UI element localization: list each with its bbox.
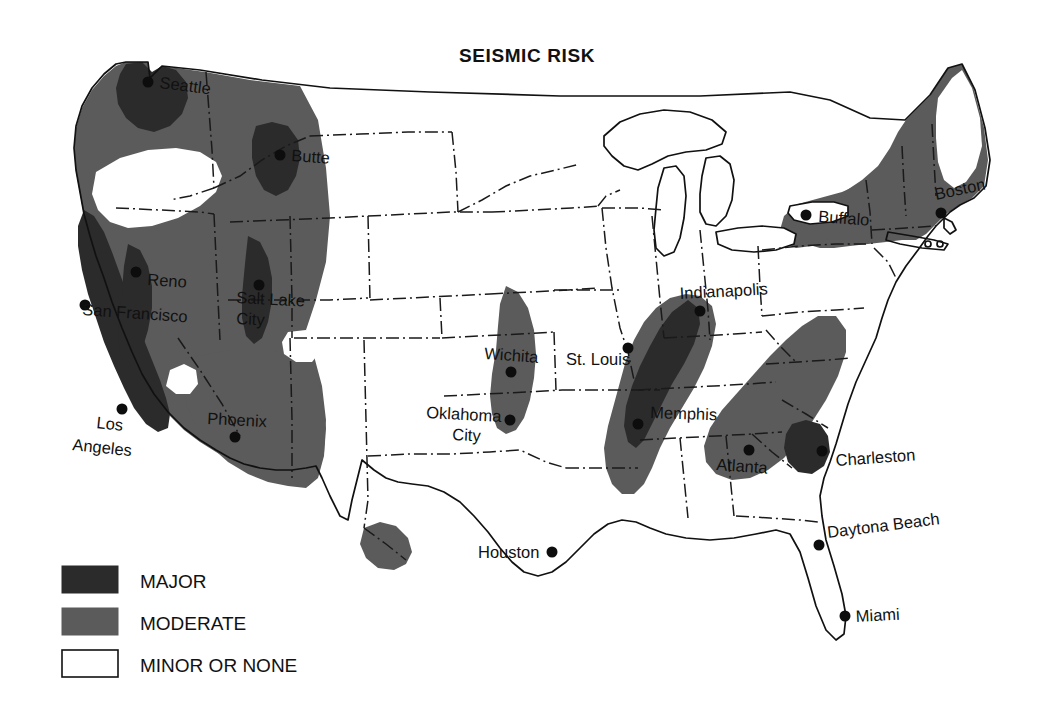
city-dot-atlanta[interactable] <box>744 445 755 456</box>
city-label-buffalo: Buffalo <box>818 207 870 229</box>
legend-label-major: MAJOR <box>140 571 207 592</box>
legend-swatch-minor <box>62 650 118 677</box>
legend-label-minor: MINOR OR NONE <box>140 655 297 676</box>
city-label-wichita: Wichita <box>484 344 540 366</box>
city-dot-oklahoma-city[interactable] <box>505 415 516 426</box>
city-label-memphis: Memphis <box>650 403 718 423</box>
city-dot-houston[interactable] <box>547 547 558 558</box>
city-label-oklahoma-city-line2: City <box>452 425 482 445</box>
city-label-salt-lake-city-line1: Salt Lake <box>236 288 306 310</box>
city-label-miami: Miami <box>855 605 900 625</box>
city-dot-seattle[interactable] <box>143 77 154 88</box>
map-title: SEISMIC RISK <box>459 45 595 66</box>
city-dot-miami[interactable] <box>840 611 851 622</box>
city-dot-charleston[interactable] <box>817 446 828 457</box>
map-canvas: SEISMIC RISK <box>0 0 1054 708</box>
lake-erie <box>716 226 796 252</box>
city-dot-butte[interactable] <box>275 150 286 161</box>
city-dot-los-angeles[interactable] <box>117 404 128 415</box>
city-dot-memphis[interactable] <box>633 419 644 430</box>
city-label-butte: Butte <box>291 146 331 167</box>
city-dot-wichita[interactable] <box>506 367 517 378</box>
city-dot-buffalo[interactable] <box>801 210 812 221</box>
city-dot-indianapolis[interactable] <box>695 306 706 317</box>
city-label-phoenix: Phoenix <box>207 409 268 430</box>
city-label-atlanta: Atlanta <box>716 455 769 477</box>
legend-swatch-major <box>62 566 118 593</box>
city-label-st-louis: St. Louis <box>566 350 630 368</box>
seismic-risk-map: SEISMIC RISK <box>0 0 1054 708</box>
city-dot-boston[interactable] <box>936 208 947 219</box>
legend-label-moderate: MODERATE <box>140 613 246 634</box>
city-dot-phoenix[interactable] <box>230 432 241 443</box>
city-label-reno: Reno <box>147 270 188 291</box>
city-label-salt-lake-city-line2: City <box>236 309 266 329</box>
city-label-houston: Houston <box>478 543 539 561</box>
city-dot-reno[interactable] <box>131 267 142 278</box>
city-label-los-angeles-line1: Los <box>96 413 124 434</box>
legend-swatch-moderate <box>62 608 118 635</box>
city-dot-daytona-beach[interactable] <box>814 540 825 551</box>
